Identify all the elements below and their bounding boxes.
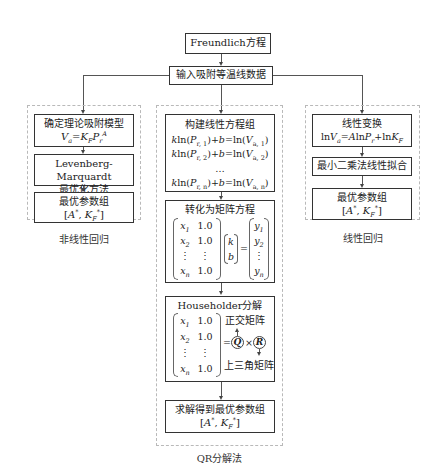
- least-squares-label: 最小二乘法线性拟合: [317, 160, 407, 171]
- theoretical-model-title: 确定理论吸附模型: [35, 117, 133, 130]
- freundlich-label: Freundlich方程: [190, 37, 265, 48]
- right-paren: [216, 218, 221, 280]
- equation-2: kln(Pr, 2)+b=ln(Va, 2): [166, 147, 274, 162]
- linear-equations-title: 构建线性方程组: [166, 118, 274, 133]
- matrix-const-column: 1.01.0⋮1.0: [194, 313, 216, 377]
- equation-n: kln(Pr, n)+b=ln(Va, n): [166, 176, 274, 191]
- input-isotherm-box: 输入吸附等温线数据: [169, 66, 273, 85]
- equals-sign: =: [223, 335, 231, 350]
- arrow-down-icon: [257, 352, 261, 356]
- solve-optimal-title: 求解得到最优参数组: [166, 403, 274, 416]
- optimal-params-title: 最优参数组: [313, 191, 411, 204]
- vector-kb: kb: [227, 234, 235, 264]
- optimal-params-values: [A*, KF*]: [166, 416, 274, 429]
- householder-box: Householder分解 x1x2⋮xn 1.01.0⋮1.0 正交矩阵 = …: [165, 296, 275, 382]
- equation-1: kln(Pr, 1)+b=ln(Va, 1): [166, 133, 274, 148]
- upper-triangular-label: 上三角矩阵: [224, 358, 274, 373]
- freundlich-equation-box: Freundlich方程: [185, 33, 271, 54]
- nonlinear-regression-label: 非线性回归: [27, 231, 141, 246]
- levenberg-marquardt-box: Levenberg-Marquardt 最优化方法: [34, 154, 134, 186]
- right-paren: [216, 313, 221, 377]
- branch-line-right: [273, 75, 363, 76]
- matrix-x-column: x1x2⋮xn: [178, 218, 192, 278]
- optimal-params-title: 最优参数组: [35, 195, 133, 208]
- optimal-params-box-left: 最优参数组 [A*, KF*]: [34, 192, 134, 223]
- matrix-const-column: 1.01.0⋮1.0: [194, 218, 216, 278]
- linear-transform-box: 线性变换 lnVa=AlnPr+lnKF: [312, 114, 412, 147]
- q-matrix-circle: Q: [231, 336, 244, 349]
- orthogonal-matrix-label: 正交矩阵: [225, 313, 265, 328]
- matrix-x-column: x1x2⋮xn: [178, 313, 192, 377]
- linear-transform-title: 线性变换: [313, 117, 411, 130]
- solve-optimal-params-box: 求解得到最优参数组 [A*, KF*]: [165, 400, 275, 433]
- least-squares-box: 最小二乘法线性拟合: [312, 157, 412, 176]
- arrow-down-icon: [219, 291, 223, 295]
- equation-ellipsis: …: [166, 162, 274, 177]
- linear-transform-formula: lnVa=AlnPr+lnKF: [313, 130, 411, 143]
- equals-sign: =: [240, 241, 248, 256]
- householder-title: Householder分解: [166, 299, 274, 312]
- r-matrix-circle: R: [253, 336, 266, 349]
- theoretical-model-box: 确定理论吸附模型 Va=KFPrA: [34, 114, 134, 147]
- linear-equations-box: 构建线性方程组 kln(Pr, 1)+b=ln(Va, 1) kln(Pr, 2…: [165, 114, 275, 192]
- input-isotherm-label: 输入吸附等温线数据: [176, 69, 266, 80]
- times-sign: ×: [245, 335, 253, 350]
- freundlich-formula: Va=KFPrA: [35, 130, 133, 143]
- optimal-params-box-right: 最优参数组 [A*, KF*]: [312, 188, 412, 220]
- optimal-params-values: [A*, KF*]: [35, 208, 133, 221]
- linear-regression-label: 线性回归: [305, 230, 420, 245]
- branch-line-left: [83, 75, 169, 76]
- qr-decomposition-label: QR分解法: [156, 450, 283, 464]
- matrix-equation-title: 转化为矩阵方程: [166, 203, 274, 216]
- lm-line1: Levenberg-Marquardt: [35, 157, 133, 183]
- matrix-equation-box: 转化为矩阵方程 x1x2⋮xn 1.01.0⋮1.0 kb = y1y2⋮yn: [165, 200, 275, 283]
- optimal-params-values: [A*, KF*]: [313, 204, 411, 217]
- vector-y: y1y2⋮yn: [252, 218, 266, 278]
